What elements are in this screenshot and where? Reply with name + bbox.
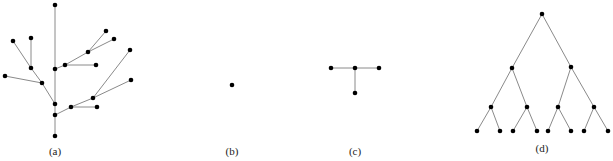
edge-a-l3-l1 [13,41,31,68]
node-d-abb [535,129,540,134]
edge-d-b-bb [571,67,594,107]
node-d-bbb [606,129,611,134]
node-d-aba [511,129,516,134]
panel-a-random-tree [3,3,134,139]
node-a-c4 [53,134,58,139]
edge-d-b-ba [558,67,571,107]
edge-a-c3-s1 [55,107,71,115]
node-d-ab [525,105,530,110]
node-d-baa [546,129,551,134]
panel-b-label: (b) [226,145,239,158]
node-d-aab [498,129,503,134]
edge-d-a-ab [512,68,527,107]
node-a-s2 [91,96,96,101]
edge-a-s2-s4 [93,80,131,98]
edge-a-l4-l5 [5,76,42,83]
edge-a-s2-s3 [93,50,130,98]
node-a-l5 [3,74,8,79]
edge-a-r2-r4 [88,39,114,52]
node-c-right [377,66,382,71]
node-a-s1 [69,105,74,110]
node-a-r1 [63,63,68,68]
panel-d-label: (d) [536,142,549,155]
node-a-r2 [86,50,91,55]
node-d-b [569,65,574,70]
node-c-center [353,66,358,71]
panel-b-single-node [230,83,235,88]
node-a-r5 [94,63,99,68]
edge-d-aa-aaa [477,107,491,131]
node-d-bb [592,105,597,110]
node-b-n [230,83,235,88]
edge-a-r1-r2 [65,52,88,65]
panel-c-star [329,66,382,96]
panel-c-label: (c) [349,145,362,158]
edge-d-a-aa [491,68,512,107]
node-d-ba [556,105,561,110]
node-d-aa [489,105,494,110]
edge-d-ab-abb [527,107,537,131]
node-a-l4 [40,81,45,86]
edge-d-ab-aba [513,107,527,131]
node-a-s3 [128,48,133,53]
node-a-top [53,3,58,8]
panel-a-label: (a) [49,145,62,158]
edge-a-r2-r3 [88,31,106,52]
edge-d-bb-bba [584,107,594,131]
edge-d-ba-baa [548,107,558,131]
node-a-r4 [112,37,117,42]
tree-figure: (a) (b) (c) (d) [0,0,613,161]
node-a-s4 [129,78,134,83]
node-c-bottom [353,91,358,96]
node-d-aaa [475,129,480,134]
edge-d-aa-aab [491,107,500,131]
node-d-root [540,12,545,17]
node-a-l1 [11,39,16,44]
node-a-l2 [29,36,34,41]
edge-a-s1-s2 [71,98,93,107]
edge-d-bb-bbb [594,107,608,131]
node-a-c3 [53,113,58,118]
node-d-a [510,66,515,71]
edge-d-root-b [542,14,571,67]
node-a-c2 [53,102,58,107]
node-c-left [329,66,334,71]
node-a-r3 [104,29,109,34]
node-a-s5 [95,105,100,110]
edge-a-c2-l4 [42,83,55,104]
edge-d-root-a [512,14,542,68]
node-d-bba [582,129,587,134]
node-d-bab [569,129,574,134]
edge-d-ba-bab [558,107,571,131]
node-a-c1 [53,67,58,72]
panel-d-binary-tree [475,12,611,134]
node-a-l3 [29,66,34,71]
